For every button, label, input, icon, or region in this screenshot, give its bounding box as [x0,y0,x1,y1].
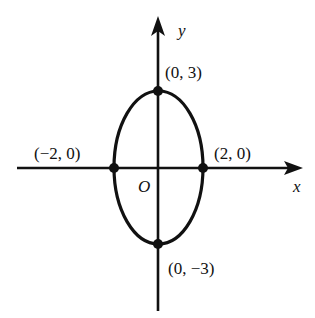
point-bottom-label: (0, −3) [168,259,214,278]
x-axis-label: x [292,177,301,196]
point-left-label: (−2, 0) [34,144,80,163]
point-right-label: (2, 0) [214,144,251,163]
point-right-dot [198,163,208,173]
ellipse-diagram: y x O (0, 3) (−2, 0) (2, 0) (0, −3) [0,0,315,318]
point-left-dot [109,163,119,173]
point-bottom-dot [153,239,163,249]
y-axis [151,16,165,311]
origin-label: O [138,177,150,196]
point-top-dot [153,86,163,96]
point-top-label: (0, 3) [165,63,202,82]
x-axis [17,161,303,175]
y-axis-label: y [176,21,186,40]
